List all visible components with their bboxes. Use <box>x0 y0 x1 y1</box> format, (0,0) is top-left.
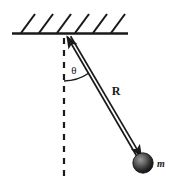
diagram-canvas: θ R m <box>0 0 178 180</box>
mass-label: m <box>157 158 165 169</box>
hatch-marks <box>21 14 125 33</box>
pendulum-diagram: θ R m <box>0 0 178 180</box>
rod-length-label: R <box>112 84 121 98</box>
pendulum-rod <box>67 36 141 157</box>
angle-label: θ <box>71 64 76 76</box>
